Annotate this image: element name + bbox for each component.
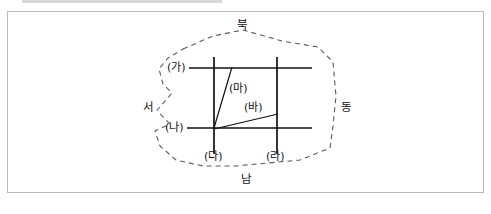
- road-line-ba: [214, 114, 278, 129]
- compass-label-west: 서: [143, 102, 154, 113]
- road-label-ra: (라): [266, 151, 285, 162]
- road-label-na: (나): [165, 122, 184, 133]
- road-label-ba: (바): [244, 102, 263, 113]
- road-label-da: (다): [204, 151, 223, 162]
- compass-label-north: 북: [237, 20, 248, 31]
- compass-label-east: 동: [341, 102, 352, 113]
- road-label-ga: (가): [167, 62, 186, 73]
- road-line-ma: [214, 67, 232, 128]
- road-label-ma: (마): [229, 83, 248, 94]
- compass-label-south: 남: [241, 174, 252, 185]
- region-boundary-dashed: [155, 30, 336, 166]
